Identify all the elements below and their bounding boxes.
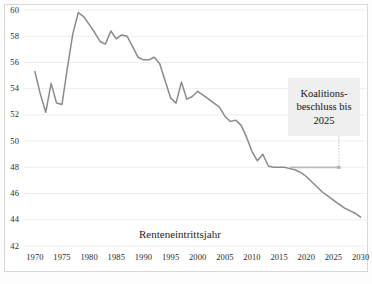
y-axis-tick-42: 42: [1, 241, 19, 251]
y-axis-tick-44: 44: [1, 214, 19, 224]
y-axis-tick-48: 48: [1, 162, 19, 172]
annotation-line-2: beschluss bis: [296, 100, 351, 114]
annotation-line-3: 2025: [314, 114, 335, 128]
annotation-callout: Koalitions- beschluss bis 2025: [288, 78, 360, 136]
x-axis-tick-2030: 2030: [344, 252, 372, 262]
y-axis-tick-56: 56: [1, 57, 19, 67]
x-axis-title: Renteneintrittsjahr: [139, 228, 221, 240]
chart-plot-area: [0, 0, 372, 284]
y-axis-tick-52: 52: [1, 109, 19, 119]
chart-container: 42444648505254565860 1970197519801985199…: [0, 0, 372, 284]
annotation-line-1: Koalitions-: [300, 87, 347, 101]
y-axis-tick-46: 46: [1, 188, 19, 198]
y-axis-tick-58: 58: [1, 31, 19, 41]
y-axis-tick-54: 54: [1, 83, 19, 93]
y-axis-tick-60: 60: [1, 5, 19, 15]
y-axis-tick-50: 50: [1, 136, 19, 146]
